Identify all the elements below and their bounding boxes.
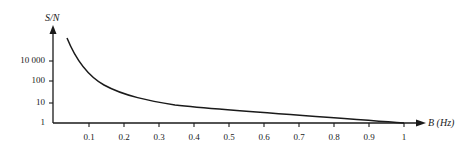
y-tick-label: 10 000 <box>0 56 45 65</box>
y-tick-label: 1 <box>0 118 45 127</box>
x-tick-label: 0.6 <box>254 133 274 142</box>
sn-curve <box>67 38 404 123</box>
x-axis-title: B (Hz) <box>428 118 454 128</box>
x-tick-label: 1 <box>394 133 414 142</box>
chart-canvas <box>0 0 471 153</box>
x-tick-label: 0.7 <box>289 133 309 142</box>
x-axis-arrow-icon <box>416 120 426 127</box>
x-tick-label: 0.4 <box>184 133 204 142</box>
y-tick-label: 10 <box>0 98 45 107</box>
x-tick-label: 0.8 <box>324 133 344 142</box>
x-tick-label: 0.3 <box>149 133 169 142</box>
x-tick-label: 0.9 <box>359 133 379 142</box>
y-axis-title: S/N <box>45 13 59 23</box>
y-axis-arrow-icon <box>50 25 57 34</box>
y-tick-label: 100 <box>0 76 45 85</box>
x-tick-label: 0.1 <box>79 133 99 142</box>
x-tick-label: 0.5 <box>219 133 239 142</box>
x-tick-label: 0.2 <box>114 133 134 142</box>
